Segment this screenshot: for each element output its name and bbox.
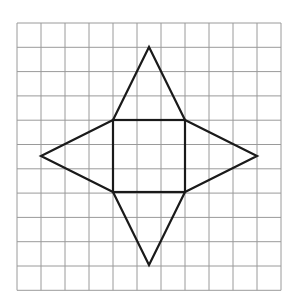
triangle-bottom <box>113 192 185 265</box>
star-net-figure <box>41 47 257 265</box>
grid-lines <box>17 23 281 290</box>
triangle-top <box>113 47 185 120</box>
triangle-right <box>185 120 257 192</box>
center-square <box>113 120 185 192</box>
grid-diagram <box>0 0 296 307</box>
triangle-left <box>41 120 113 192</box>
